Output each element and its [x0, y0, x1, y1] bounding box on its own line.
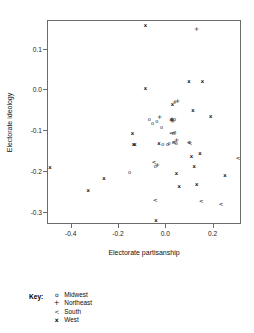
data-point-south: <: [152, 160, 157, 166]
data-point-south: <: [188, 141, 193, 147]
y-axis-tick: [43, 89, 47, 90]
data-point-west: x: [191, 108, 194, 113]
data-point-west: x: [201, 79, 204, 84]
legend-entries: oMidwest+Northeast<SouthxWest: [52, 292, 92, 323]
x-axis-tick: [165, 224, 166, 228]
legend-item-west: xWest: [52, 317, 92, 323]
data-point-west: x: [223, 174, 226, 179]
data-point-west: x: [171, 103, 174, 108]
y-axis-title: Electorate ideology: [4, 20, 16, 224]
y-axis-tick: [43, 130, 47, 131]
data-point-northeast: +: [170, 118, 175, 124]
legend-marker-icon: +: [52, 300, 61, 307]
data-point-west: x: [175, 171, 178, 176]
x-axis-tick-label: -0.2: [112, 230, 123, 237]
legend-item-label: Northeast: [64, 300, 92, 306]
x-axis-tick-label: 0.0: [161, 230, 170, 237]
x-axis-tick: [213, 224, 214, 228]
y-axis-tick: [43, 49, 47, 50]
data-point-west: x: [144, 86, 147, 91]
data-point-west: x: [190, 155, 193, 160]
legend-marker-icon: <: [52, 309, 61, 315]
y-axis-tick-label: -0.3: [31, 208, 42, 215]
data-point-west: x: [209, 115, 212, 120]
data-point-northeast: +: [175, 98, 180, 104]
data-point-south: <: [199, 199, 204, 205]
data-point-midwest: o: [151, 120, 154, 125]
plot-frame: oooooooooooooo+++++++++<<<<<<<<<<xxxxxxx…: [47, 20, 241, 224]
data-point-south: <: [171, 131, 176, 137]
y-axis-tick-label: -0.2: [31, 167, 42, 174]
y-axis-tick: [43, 171, 47, 172]
plot-area: oooooooooooooo+++++++++<<<<<<<<<<xxxxxxx…: [48, 21, 240, 223]
data-point-south: <: [172, 140, 177, 146]
data-point-west: x: [133, 142, 136, 147]
x-axis-tick-label: 0.2: [208, 230, 217, 237]
data-point-northeast: +: [157, 114, 162, 120]
data-point-west: x: [177, 184, 180, 189]
legend-item-label: South: [64, 309, 81, 315]
data-point-midwest: o: [128, 169, 131, 174]
data-point-midwest: o: [161, 142, 164, 147]
legend-item-midwest: oMidwest: [52, 292, 92, 298]
legend-marker-icon: x: [52, 317, 61, 323]
x-axis-title: Electorate partisanship: [47, 249, 241, 256]
legend-item-south: <South: [52, 309, 92, 315]
data-point-midwest: o: [168, 140, 171, 145]
data-point-south: <: [219, 202, 224, 208]
data-point-west: x: [195, 182, 198, 187]
data-point-west: x: [154, 218, 157, 223]
data-point-west: x: [102, 176, 105, 181]
data-point-west: x: [131, 131, 134, 136]
legend-item-label: Midwest: [64, 292, 87, 298]
data-point-midwest: o: [160, 124, 163, 129]
data-point-west: x: [187, 80, 190, 85]
data-point-west: x: [144, 23, 147, 28]
legend-marker-icon: o: [52, 292, 61, 298]
y-axis-tick-label: 0.0: [33, 86, 42, 93]
x-axis-tick: [71, 224, 72, 228]
data-point-west: x: [193, 164, 196, 169]
y-axis-title-text: Electorate ideology: [7, 92, 14, 152]
y-axis-tick-label: 0.1: [33, 45, 42, 52]
y-axis-tick-label: -0.1: [31, 127, 42, 134]
x-axis-tick-label: -0.4: [65, 230, 76, 237]
legend-item-label: West: [64, 317, 78, 323]
legend-title: Key:: [29, 292, 43, 300]
data-point-south: <: [153, 198, 158, 204]
x-axis-tick: [118, 224, 119, 228]
data-point-south: <: [236, 156, 240, 162]
data-point-west: x: [198, 152, 201, 157]
y-axis-tick: [43, 212, 47, 213]
legend-item-northeast: +Northeast: [52, 300, 92, 307]
data-point-northeast: +: [194, 26, 199, 32]
legend: Key: oMidwest+Northeast<SouthxWest: [29, 292, 92, 323]
data-point-west: x: [157, 142, 160, 147]
data-point-west: x: [48, 165, 51, 170]
scatter-plot-figure: Electorate ideology oooooooooooooo++++++…: [0, 0, 254, 333]
data-point-west: x: [87, 189, 90, 194]
